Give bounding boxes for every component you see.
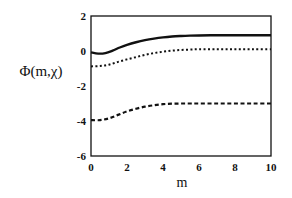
series-layer <box>91 35 271 120</box>
x-axis-label: m <box>177 175 188 190</box>
y-tick-labels: 20-2-4-6 <box>77 10 87 162</box>
x-tick-label: 0 <box>88 161 94 173</box>
x-tick-label: 4 <box>160 161 166 173</box>
y-axis-label: Φ(m,χ) <box>19 63 62 80</box>
chart: 20-2-4-6 0246810 m Φ(m,χ) <box>0 0 292 198</box>
y-tick-label: -4 <box>77 115 87 127</box>
x-tick-labels: 0246810 <box>88 161 277 173</box>
x-tick-label: 10 <box>266 161 278 173</box>
x-tick-label: 6 <box>196 161 202 173</box>
y-tick-label: 0 <box>81 45 87 57</box>
y-tick-label: 2 <box>81 10 87 22</box>
y-tick-label: -2 <box>77 80 87 92</box>
y-tick-label: -6 <box>77 150 87 162</box>
x-tick-label: 8 <box>232 161 238 173</box>
series-line-solid <box>91 35 271 53</box>
series-line-dotted <box>91 49 271 66</box>
series-line-dashed <box>91 103 271 120</box>
x-tick-label: 2 <box>124 161 130 173</box>
